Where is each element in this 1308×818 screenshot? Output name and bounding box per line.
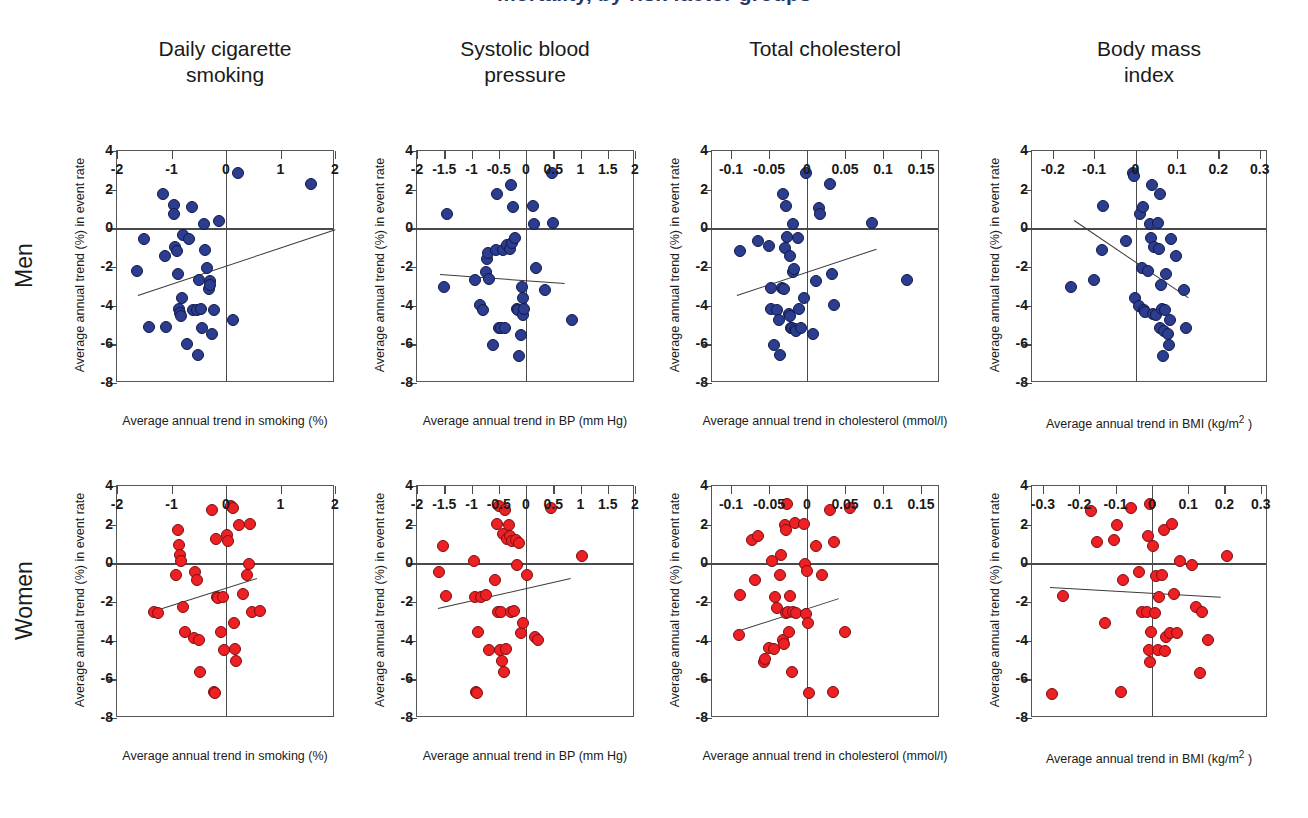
- zero-line-vertical: [807, 151, 808, 381]
- y-tick-label: 4: [700, 142, 708, 158]
- x-tick-label: 0.15: [907, 161, 934, 177]
- data-point: [159, 250, 171, 262]
- x-tick: [1152, 486, 1153, 494]
- x-tick: [635, 486, 636, 494]
- data-point: [171, 245, 183, 257]
- plot-area: 420-2-4-6-8-0.1-0.0500.050.10.15: [711, 150, 939, 382]
- x-tick-label: -2: [111, 161, 123, 177]
- y-tick-label: 0: [405, 554, 413, 570]
- panel-women-smoking: 420-2-4-6-8-2-1012Average annual trend (…: [60, 475, 350, 775]
- x-tick: [769, 151, 770, 159]
- y-tick-label: 4: [105, 142, 113, 158]
- data-point: [517, 617, 529, 629]
- x-tick: [472, 486, 473, 494]
- zero-line-horizontal: [1032, 563, 1266, 564]
- x-tick-label: 0: [522, 496, 530, 512]
- x-tick-label: 0.2: [1209, 161, 1228, 177]
- data-point: [803, 687, 815, 699]
- data-point: [254, 605, 266, 617]
- y-tick-label: -2: [401, 258, 413, 274]
- data-point: [547, 217, 559, 229]
- x-tick: [845, 486, 846, 494]
- data-point: [477, 304, 489, 316]
- data-point: [469, 274, 481, 286]
- data-point: [777, 188, 789, 200]
- y-tick-label: 2: [700, 516, 708, 532]
- data-point: [1160, 268, 1172, 280]
- y-tick-label: -4: [1016, 297, 1028, 313]
- data-point: [227, 314, 239, 326]
- data-point: [778, 283, 790, 295]
- data-point: [527, 200, 539, 212]
- data-point: [176, 292, 188, 304]
- data-point: [1108, 534, 1120, 546]
- zero-line-vertical: [526, 151, 527, 381]
- x-tick: [417, 151, 418, 159]
- x-tick-label: -1.5: [432, 496, 456, 512]
- zero-line-horizontal: [712, 563, 938, 564]
- column-header-3: Body massindex: [1019, 36, 1279, 88]
- plot-area: 420-2-4-6-8-0.1-0.0500.050.10.15: [711, 485, 939, 717]
- data-point: [199, 244, 211, 256]
- x-tick: [553, 486, 554, 494]
- data-point: [213, 215, 225, 227]
- y-axis-label: Average annual trend (%) in event rate: [668, 480, 682, 720]
- x-tick-label: 0.05: [831, 161, 858, 177]
- data-point: [798, 518, 810, 530]
- y-tick-label: 4: [105, 477, 113, 493]
- data-point: [168, 208, 180, 220]
- x-tick: [731, 151, 732, 159]
- data-point: [1162, 328, 1174, 340]
- data-point: [810, 540, 822, 552]
- y-axis-label: Average annual trend (%) in event rate: [373, 145, 387, 385]
- y-tick-label: 0: [405, 219, 413, 235]
- data-point: [209, 687, 221, 699]
- y-tick-label: -2: [101, 258, 113, 274]
- data-point: [1096, 244, 1108, 256]
- x-tick: [1188, 486, 1189, 494]
- x-tick: [335, 151, 336, 159]
- x-tick: [731, 486, 732, 494]
- x-tick-label: -1.5: [432, 161, 456, 177]
- data-point: [775, 549, 787, 561]
- data-point: [1133, 566, 1145, 578]
- x-tick-label: 0.3: [1250, 161, 1269, 177]
- x-tick-label: 0.1: [873, 496, 892, 512]
- x-tick: [335, 486, 336, 494]
- panel-women-bp: 420-2-4-6-8-2-1.5-1-0.500.511.52Average …: [360, 475, 650, 775]
- x-tick: [172, 151, 173, 159]
- y-tick-label: 0: [700, 219, 708, 235]
- x-axis-label: Average annual trend in cholesterol (mmo…: [675, 414, 975, 428]
- figure-top-title: mortality, by risk factor groups: [0, 0, 1308, 6]
- data-point: [1171, 627, 1183, 639]
- data-point: [518, 303, 530, 315]
- data-point: [508, 605, 520, 617]
- data-point: [513, 350, 525, 362]
- panel-men-smoking: 420-2-4-6-8-2-1012Average annual trend (…: [60, 140, 350, 440]
- y-tick-label: 4: [700, 477, 708, 493]
- zero-line-horizontal: [417, 563, 633, 564]
- x-axis-label: Average annual trend in BMI (kg/m2 ): [989, 749, 1308, 766]
- data-point: [489, 574, 501, 586]
- data-point: [1163, 339, 1175, 351]
- x-tick: [444, 486, 445, 494]
- x-tick: [526, 486, 527, 494]
- data-point: [472, 626, 484, 638]
- y-tick-label: 0: [1020, 219, 1028, 235]
- column-header-line2: smoking: [95, 62, 355, 88]
- data-point: [175, 310, 187, 322]
- data-point: [749, 574, 761, 586]
- x-tick: [1218, 151, 1219, 159]
- data-point: [1170, 250, 1182, 262]
- data-point: [1174, 555, 1186, 567]
- data-point: [788, 263, 800, 275]
- y-tick-label: -4: [696, 632, 708, 648]
- data-point: [1180, 322, 1192, 334]
- data-point: [471, 687, 483, 699]
- y-tick-label: 2: [1020, 181, 1028, 197]
- x-tick-label: -0.5: [487, 496, 511, 512]
- data-point: [528, 218, 540, 230]
- x-tick-label: 0: [522, 161, 530, 177]
- plot-area: 420-2-4-6-8-2-1012: [116, 485, 334, 717]
- y-axis-label: Average annual trend (%) in event rate: [988, 145, 1002, 385]
